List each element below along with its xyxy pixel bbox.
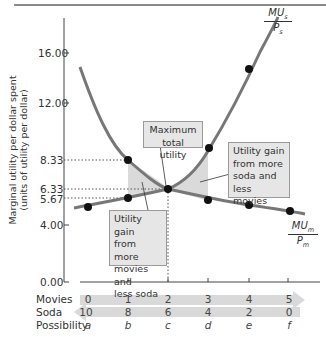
point-mum-a — [84, 203, 92, 211]
movies-cell: 3 — [198, 293, 218, 305]
possibility-cell: d — [198, 319, 218, 331]
possibility-cell: f — [279, 319, 299, 331]
mum-pm-label: MUm Pm — [288, 220, 318, 249]
soda-cell: 0 — [279, 306, 299, 318]
ytick-833: 8.33 — [40, 154, 63, 166]
ytick-4: 4.00 — [40, 219, 63, 231]
movies-cell: 2 — [158, 293, 178, 305]
label-gain-soda: Utility gain from more soda and less mov… — [228, 142, 290, 198]
mus-ps-label: MUs Ps — [264, 7, 292, 36]
soda-cell: 2 — [239, 306, 259, 318]
y-axis-title-line2: (units of utility per dollar) — [18, 89, 29, 211]
soda-cell: 8 — [118, 306, 138, 318]
point-mus-b — [124, 156, 132, 164]
possibility-cell: a — [78, 319, 98, 331]
movies-row-label: Movies — [36, 293, 73, 305]
ytick-16: 16.00 — [38, 47, 68, 59]
possibility-cell: c — [158, 319, 178, 331]
ytick-0: 0.00 — [40, 276, 63, 288]
soda-row-label: Soda — [36, 306, 62, 318]
soda-cell: 4 — [198, 306, 218, 318]
movies-cell: 1 — [118, 293, 138, 305]
possibility-cell: b — [118, 319, 138, 331]
ytick-12: 12.00 — [38, 97, 68, 109]
label-gain-movies: Utility gain from more movies and less s… — [109, 210, 167, 266]
point-mum-d — [204, 196, 212, 204]
soda-arrow — [74, 303, 300, 321]
point-mus-d — [205, 144, 213, 152]
soda-cell: 10 — [76, 306, 96, 318]
possibility-cell: e — [239, 319, 259, 331]
label-max-utility: Maximum total utility — [143, 121, 203, 148]
point-mum-f — [286, 207, 294, 215]
ytick-567: 5.67 — [40, 193, 63, 205]
movies-cell: 0 — [78, 293, 98, 305]
point-mus-e — [245, 65, 253, 73]
soda-cell: 6 — [158, 306, 178, 318]
movies-cell: 4 — [239, 293, 259, 305]
point-equilibrium-c — [164, 185, 172, 193]
y-axis-title-line1: Marginal utility per dollar spent — [7, 75, 18, 224]
point-mum-b — [124, 194, 132, 202]
movies-cell: 5 — [279, 293, 299, 305]
